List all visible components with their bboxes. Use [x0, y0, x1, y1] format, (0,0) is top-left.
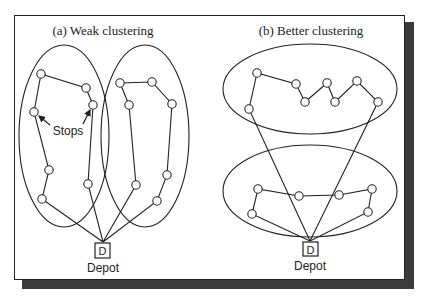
stop-node [301, 98, 309, 106]
stop-node [38, 195, 46, 203]
route-bottom [252, 189, 372, 241]
arrow-icon [83, 110, 90, 124]
stop-node [254, 185, 262, 193]
route-top [249, 73, 378, 241]
cluster-ellipse-top [223, 44, 397, 134]
panel-a-title: (a) Weak clustering [52, 23, 154, 38]
stop-node [374, 98, 382, 106]
clustering-diagram: (a) Weak clustering Stops D De [0, 0, 422, 302]
stop-node [295, 192, 303, 200]
stops-annotation: Stops [53, 124, 84, 138]
stop-node [82, 84, 90, 92]
stop-node [148, 78, 156, 86]
stop-node [368, 185, 376, 193]
panel-better-clustering: (b) Better clustering D Depot [223, 23, 397, 273]
depot-label-b: Depot [294, 259, 327, 273]
stop-node [245, 105, 253, 113]
arrow-icon [39, 116, 50, 125]
depot-label-a: Depot [87, 261, 120, 275]
depot-letter-b: D [307, 244, 315, 256]
stop-node [153, 197, 161, 205]
stop-node [89, 101, 97, 109]
stop-node [331, 98, 339, 106]
stop-node [37, 70, 45, 78]
stop-node [84, 180, 92, 188]
stop-node [163, 171, 171, 179]
stop-node [132, 181, 140, 189]
stop-node [168, 100, 176, 108]
route-left [34, 74, 103, 242]
stop-node [30, 108, 38, 116]
stop-node [323, 79, 331, 87]
cluster-ellipse-right [101, 45, 189, 227]
stop-node [253, 69, 261, 77]
stop-node [335, 191, 343, 199]
stop-node [353, 77, 361, 85]
stop-node [248, 210, 256, 218]
stop-node [292, 80, 300, 88]
stop-node [364, 208, 372, 216]
stop-node [125, 101, 133, 109]
panel-weak-clustering: (a) Weak clustering Stops D De [19, 23, 189, 275]
route-right [103, 82, 172, 242]
panel-b-title: (b) Better clustering [259, 23, 364, 38]
stop-node [45, 166, 53, 174]
stop-node [116, 79, 124, 87]
depot-letter-a: D [99, 245, 107, 257]
